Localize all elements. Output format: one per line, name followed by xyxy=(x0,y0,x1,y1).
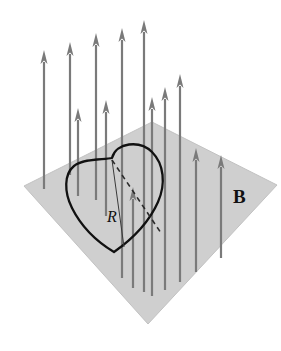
field-plane xyxy=(24,122,277,324)
field-arrow-head-icon xyxy=(162,87,169,101)
field-arrow-head-icon xyxy=(141,20,148,34)
field-arrow-2 xyxy=(67,42,74,175)
field-arrow-head-icon xyxy=(93,33,100,47)
radius-label-R: R xyxy=(106,208,117,225)
field-arrow-head-icon xyxy=(41,50,48,64)
field-arrow-head-icon xyxy=(149,97,156,111)
field-arrow-head-icon xyxy=(103,100,110,114)
field-arrow-head-icon xyxy=(177,74,184,88)
diagram-canvas: BR xyxy=(0,0,281,351)
field-arrow-1 xyxy=(41,50,48,189)
field-label-B: B xyxy=(233,186,246,207)
field-arrow-head-icon xyxy=(119,28,126,42)
field-arrow-head-icon xyxy=(75,108,82,122)
field-arrow-head-icon xyxy=(67,42,74,56)
magnetic-flux-diagram: BR xyxy=(0,0,281,351)
